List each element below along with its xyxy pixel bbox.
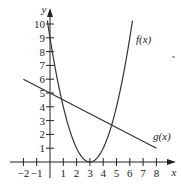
y-tick-label: 10	[34, 18, 46, 30]
x-tick-label: −2	[18, 167, 30, 179]
function-graph: −2−112345678 12345678910 y x f(x) g(x)	[0, 0, 181, 192]
y-axis-label: y	[41, 3, 47, 15]
x-tick-labels: −2−112345678	[18, 167, 160, 179]
x-axis-label: x	[171, 166, 177, 178]
y-tick-label: 9	[40, 32, 46, 44]
x-axis-arrow-icon	[167, 159, 176, 165]
y-axis-arrow-icon	[47, 8, 53, 17]
y-tick-label: 4	[40, 101, 46, 113]
x-tick-label: 1	[61, 167, 67, 179]
x-tick-label: 8	[154, 167, 160, 179]
f-curve-label: f(x)	[136, 33, 152, 46]
y-tick-label: 7	[40, 59, 46, 71]
y-tick-label: 6	[40, 73, 46, 85]
x-tick-label: 7	[140, 167, 146, 179]
x-tick-label: 5	[114, 167, 120, 179]
y-tick-label: 8	[40, 46, 46, 58]
x-tick-label: 6	[127, 167, 133, 179]
f-curve	[47, 21, 132, 162]
x-tick-label: 4	[100, 167, 106, 179]
y-tick-label: 1	[40, 142, 46, 154]
x-tick-label: 3	[87, 167, 93, 179]
x-tick-label: −1	[31, 167, 43, 179]
g-line-label: g(x)	[153, 130, 171, 143]
y-tick-label: 2	[40, 128, 46, 140]
x-tick-label: 2	[74, 167, 80, 179]
y-tick-label: 3	[40, 115, 46, 127]
